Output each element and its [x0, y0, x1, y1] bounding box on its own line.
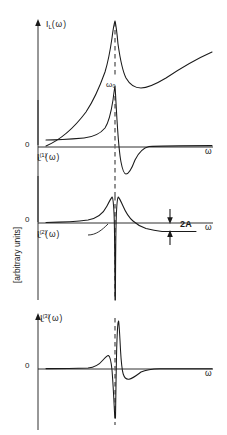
- plot-canvas: [0, 0, 227, 435]
- panel-3-y-axis: [35, 313, 41, 430]
- panel-1-curve: [46, 86, 212, 174]
- panel-2-curve: [46, 197, 196, 300]
- panel-0-curve: [46, 21, 212, 146]
- panel-3-curve: [46, 321, 212, 418]
- figure-root: [arbitrary units] IL(ω) ω₀ 0 I(1)L(ω) ω …: [0, 0, 227, 435]
- amplitude-2A-arrows: [167, 209, 173, 245]
- panel-2-label-leader: [88, 224, 108, 235]
